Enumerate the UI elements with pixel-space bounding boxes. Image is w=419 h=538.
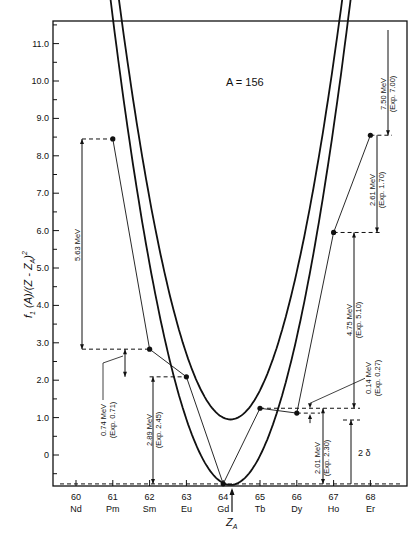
energy-label: 2.61 MeV(Exp. 1.70) <box>368 171 386 208</box>
y-tick-label: 1.0 <box>36 413 49 423</box>
energy-label: 2.01 MeV(Exp. 2.30) <box>313 439 331 476</box>
energy-label: 2.89 MeV(Exp. 2.45) <box>145 411 163 448</box>
svg-text:(Exp. 5.10): (Exp. 5.10) <box>354 301 363 338</box>
svg-text:(Exp. 7.00): (Exp. 7.00) <box>388 75 397 112</box>
energy-annotations: 5.63 MeV0.74 MeV(Exp. 0.71)2.89 MeV(Exp.… <box>60 30 400 484</box>
y-tick-label: 0 <box>44 450 49 460</box>
element-label: Gd <box>217 504 229 514</box>
svg-text:0.74 MeV: 0.74 MeV <box>99 404 108 436</box>
svg-text:(Exp. 0.71): (Exp. 0.71) <box>108 401 117 438</box>
y-tick-label: 3.0 <box>36 338 49 348</box>
energy-label: 0.14 MeV(Exp. 0.27) <box>364 359 382 396</box>
y-tick-label: 5.0 <box>36 263 49 273</box>
element-label: Sm <box>143 504 157 514</box>
svg-text:2.89 MeV: 2.89 MeV <box>145 414 154 446</box>
x-tick-label: 62 <box>145 492 155 502</box>
energy-label: 0.74 MeV(Exp. 0.71) <box>99 401 117 438</box>
x-tick-label: 68 <box>365 492 375 502</box>
energy-label: 7.50 MeV(Exp. 7.00) <box>379 75 397 112</box>
svg-text:2.61 MeV: 2.61 MeV <box>368 174 377 206</box>
y-tick-label: 2.0 <box>36 375 49 385</box>
two-delta-label: 2 δ <box>358 448 371 458</box>
mass-parabola-chart: 01.02.03.04.05.06.07.08.09.010.011.0 60N… <box>0 0 419 538</box>
svg-text:5.63 MeV: 5.63 MeV <box>73 229 82 261</box>
energy-label: 4.75 MeV(Exp. 5.10) <box>345 301 363 338</box>
svg-text:(Exp. 0.27): (Exp. 0.27) <box>373 359 382 396</box>
x-tick-label: 64 <box>218 492 228 502</box>
svg-text:f1 (A)/(Z - ZA)2: f1 (A)/(Z - ZA)2 <box>21 251 36 318</box>
element-label: Tb <box>255 504 266 514</box>
x-tick-label: 66 <box>292 492 302 502</box>
element-label: Er <box>366 504 375 514</box>
x-tick-label: 60 <box>71 492 81 502</box>
svg-text:0.14 MeV: 0.14 MeV <box>364 362 373 394</box>
y-axis: 01.02.03.04.05.06.07.08.09.010.011.0 <box>31 25 59 474</box>
x-tick-label: 67 <box>329 492 339 502</box>
element-label: Nd <box>70 504 82 514</box>
element-label: Eu <box>181 504 192 514</box>
y-tick-label: 7.0 <box>36 188 49 198</box>
svg-text:(Exp. 2.45): (Exp. 2.45) <box>154 411 163 448</box>
y-tick-label: 8.0 <box>36 151 49 161</box>
element-label: Dy <box>291 504 302 514</box>
element-label: Ho <box>328 504 340 514</box>
x-tick-label: 63 <box>181 492 191 502</box>
element-label: Pm <box>106 504 120 514</box>
x-tick-label: 65 <box>255 492 265 502</box>
y-axis-label: f1 (A)/(Z - ZA)2 <box>21 251 36 318</box>
y-tick-label: 4.0 <box>36 300 49 310</box>
svg-text:7.50 MeV: 7.50 MeV <box>379 78 388 110</box>
svg-text:(Exp. 1.70): (Exp. 1.70) <box>377 171 386 208</box>
y-tick-label: 11.0 <box>32 39 49 49</box>
parabola-curves <box>76 0 374 485</box>
parabola-curve <box>105 0 374 420</box>
energy-label: 5.63 MeV <box>73 229 82 261</box>
svg-text:4.75 MeV: 4.75 MeV <box>345 304 354 336</box>
y-tick-label: 6.0 <box>36 226 49 236</box>
svg-text:(Exp. 2.30): (Exp. 2.30) <box>322 439 331 476</box>
x-tick-label: 61 <box>108 492 118 502</box>
svg-text:ZA: ZA <box>225 516 238 530</box>
svg-text:2.01 MeV: 2.01 MeV <box>313 442 322 474</box>
chart-title: A = 156 <box>226 76 264 88</box>
y-tick-label: 10.0 <box>31 76 49 86</box>
y-tick-label: 9.0 <box>36 113 49 123</box>
